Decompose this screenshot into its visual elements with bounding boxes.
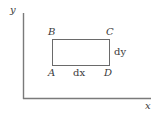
corner-label-d: D — [104, 68, 112, 78]
x-axis-label: x — [145, 101, 151, 111]
corner-label-c: C — [106, 27, 114, 37]
diagram-canvas — [0, 0, 158, 113]
dx-label: dx — [73, 68, 85, 78]
dy-label: dy — [114, 47, 126, 57]
corner-label-b: B — [48, 27, 55, 37]
corner-label-a: A — [48, 68, 55, 78]
element-rectangle — [53, 40, 110, 66]
y-axis-label: y — [10, 5, 16, 15]
